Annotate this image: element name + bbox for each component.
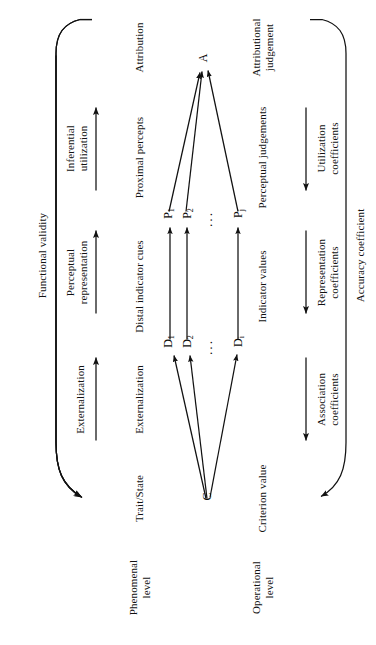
stage-label-attribution: Attribution: [133, 2, 146, 92]
stage-label-externalization-2: Externalization: [74, 344, 87, 454]
stage-label-proximal-percepts: Proximal percepts: [133, 97, 146, 217]
edge-c-d3: [210, 354, 237, 497]
stage-label-representation-coefficients: Representation coefficients: [315, 212, 340, 332]
stage-label-perceptual-representation-2: Perceptual representation: [64, 214, 89, 330]
stage-label-perceptual-judgements: Perceptual judgements: [256, 87, 269, 227]
edge-p1-a: [169, 72, 200, 211]
node-criterion: C: [185, 492, 230, 512]
node-criterion-label: C: [200, 492, 214, 500]
edge-c-d1: [174, 355, 206, 498]
node-attribution-label: A: [196, 53, 210, 62]
edge-p3-a: [208, 70, 238, 211]
stage-label-trait-state: Trait/State: [133, 452, 146, 544]
stage-label-distal-indicator-cues: Distal indicator cues: [133, 221, 146, 351]
arc-label-accuracy-coefficient: Accuracy coefficient: [354, 155, 367, 355]
stage-label-criterion-value: Criterion value: [256, 448, 269, 548]
node-proximal-j-sub: j: [237, 209, 246, 211]
node-attribution: A: [181, 53, 226, 73]
operational-level-label: Operational level: [250, 542, 275, 632]
node-distal-i: Di: [216, 336, 261, 359]
node-proximal-2-sub: 2: [186, 208, 195, 212]
edge-c-d2: [190, 355, 207, 498]
node-distal-i-sub: i: [237, 336, 246, 338]
stage-label-attributional-judgement: Attributional judgement: [250, 0, 275, 102]
node-distal-2-sub: 2: [186, 335, 195, 339]
arc-label-functional-validity: Functional validity: [36, 160, 49, 350]
stage-label-inferential-utilization-2: Inferential utilization: [64, 93, 89, 203]
stage-label-association-coefficients: Association coefficients: [315, 344, 340, 454]
edge-p2-a: [186, 71, 202, 211]
stage-label-utilization-coefficients: Utilization coefficients: [315, 93, 340, 203]
node-proximal-j: Pj: [216, 209, 261, 230]
lens-model-diagram: C D1 D2 ··· Di P1 P2 ··· Pj A Phenomenal…: [0, 0, 376, 645]
stage-label-externalization: Externalization: [133, 349, 146, 449]
phenomenal-level-label: Phenomenal level: [127, 542, 152, 632]
stage-label-indicator-values: Indicator values: [256, 231, 269, 341]
